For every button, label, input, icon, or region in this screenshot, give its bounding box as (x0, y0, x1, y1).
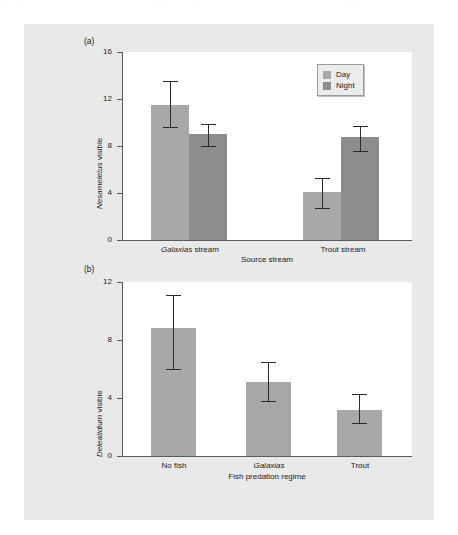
panel-a-ytick-label-8: 8 (88, 142, 112, 150)
panel-b-errorcap-galaxias-top (261, 362, 276, 363)
panel-b: (b) Deleatidium visible 0 4 8 12 (24, 264, 434, 520)
panel-b-errorcap-trout-bottom (352, 423, 367, 424)
panel-a-errorcap-galaxias-day-top (163, 81, 178, 82)
legend-swatch-day (323, 71, 331, 79)
panel-a-y-axis-label-genus: Nesameletus (95, 162, 104, 209)
panel-a-ytick-12 (117, 99, 122, 100)
panel-a-errorcap-galaxias-day-bottom (163, 127, 178, 128)
panel-a-x-axis-title: Source stream (177, 255, 357, 264)
panel-b-x-axis-title: Fish predation regime (177, 472, 357, 481)
scan-header-text: . . . . . . . . . . . . . . . . . . . . … (0, 0, 458, 10)
panel-a-errorbar-trout-day (322, 178, 323, 208)
panel-b-ytick-0 (117, 456, 122, 457)
legend-swatch-night (323, 82, 331, 90)
panel-a-errorcap-trout-night-bottom (353, 151, 368, 152)
panel-a-errorcap-trout-day-bottom (315, 208, 330, 209)
panel-b-errorbar-no-fish (173, 295, 174, 369)
panel-a-ytick-label-16: 16 (88, 48, 112, 56)
legend-label-night: Night (336, 81, 355, 90)
panel-a-errorcap-galaxias-night-bottom (201, 146, 216, 147)
panel-a-xlabel-trout-stream: Trout stream (302, 245, 384, 254)
panel-a-xlabel-galaxias-genus: Galaxias (161, 245, 192, 254)
panel-a-errorcap-galaxias-night-top (201, 124, 216, 125)
panel-b-errorcap-galaxias-bottom (261, 401, 276, 402)
panel-a-legend: Day Night (317, 64, 364, 96)
panel-b-xlabel-galaxias-genus: Galaxias (253, 461, 284, 470)
panel-b-ytick-8 (117, 340, 122, 341)
panel-b-ytick-label-12: 12 (88, 278, 112, 286)
scan-header-artifact: . . . . . . . . . . . . . . . . . . . . … (0, 0, 458, 12)
panel-a-ytick-8 (117, 146, 122, 147)
panel-b-ytick-4 (117, 398, 122, 399)
panel-a-ytick-16 (117, 52, 122, 53)
panel-b-ytick-label-0: 0 (88, 452, 112, 460)
panel-a-y-axis (122, 52, 123, 241)
panel-b-y-axis (122, 282, 123, 457)
panel-a-errorbar-trout-night (360, 126, 361, 151)
panel-a-ytick-label-12: 12 (88, 95, 112, 103)
panel-b-xlabel-no-fish: No fish (133, 461, 215, 470)
panel-a-xlabel-trout-rest: Trout stream (320, 245, 365, 254)
panel-b-errorcap-no-fish-bottom (166, 369, 181, 370)
panel-a-errorbar-galaxias-night (208, 124, 209, 146)
panel-b-xlabel-trout: Trout (319, 461, 401, 470)
panel-b-xlabel-galaxias: Galaxias (228, 461, 310, 470)
panel-a-errorbar-galaxias-day (170, 81, 171, 127)
panel-b-xlabel-trout-text: Trout (351, 461, 369, 470)
panel-b-ytick-12 (117, 282, 122, 283)
panel-b-label: (b) (84, 264, 94, 274)
panel-a-bar-galaxias-night (189, 134, 227, 240)
panel-b-ytick-label-8: 8 (88, 336, 112, 344)
panel-b-errorcap-no-fish-top (166, 295, 181, 296)
legend-item-night: Night (323, 80, 355, 91)
figure-page: . . . . . . . . . . . . . . . . . . . . … (0, 0, 458, 535)
panel-b-errorbar-trout (359, 394, 360, 423)
panel-b-ytick-label-4: 4 (88, 394, 112, 402)
legend-item-day: Day (323, 69, 355, 80)
panel-b-errorcap-trout-top (352, 394, 367, 395)
panel-a-ytick-label-0: 0 (88, 236, 112, 244)
panel-b-x-axis (122, 456, 412, 457)
panel-a-errorcap-trout-night-top (353, 126, 368, 127)
panel-a-label: (a) (84, 36, 94, 46)
legend-label-day: Day (336, 70, 350, 79)
panel-a-ytick-4 (117, 193, 122, 194)
panel-b-y-axis-label-genus: Deleatidium (95, 415, 104, 457)
panel-a-xlabel-galaxias-rest: stream (192, 245, 219, 254)
panel-a: (a) Nesameletus visible 0 4 8 12 16 (24, 24, 434, 264)
panel-a-x-axis (122, 240, 412, 241)
panel-a-xlabel-galaxias-stream: Galaxias stream (149, 245, 231, 254)
panel-a-ytick-label-4: 4 (88, 189, 112, 197)
panel-b-xlabel-no-fish-text: No fish (162, 461, 187, 470)
panel-a-errorcap-trout-day-top (315, 178, 330, 179)
panel-a-ytick-0 (117, 240, 122, 241)
panel-b-errorbar-galaxias (268, 362, 269, 401)
panel-a-bar-trout-night (341, 137, 379, 240)
